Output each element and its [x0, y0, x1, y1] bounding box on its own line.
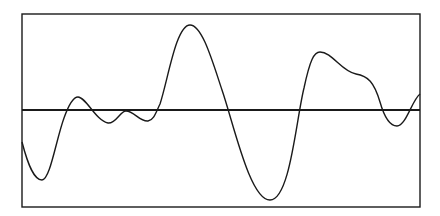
- waveform-diagram: [0, 0, 440, 216]
- waveform-curve: [22, 25, 420, 200]
